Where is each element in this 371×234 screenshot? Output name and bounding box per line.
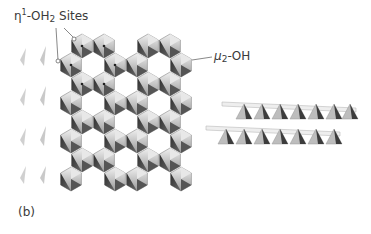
- eta-oh2-sites-label: η1-OH2 Sites: [14, 8, 88, 24]
- side-view-layers: [206, 102, 358, 144]
- faded-edge-octahedra: [20, 46, 46, 184]
- panel-label: (b): [18, 205, 35, 219]
- top-view-sheet: [61, 34, 192, 191]
- structure-diagram: [0, 0, 371, 234]
- mu2-oh-label: μ2-OH: [214, 49, 250, 64]
